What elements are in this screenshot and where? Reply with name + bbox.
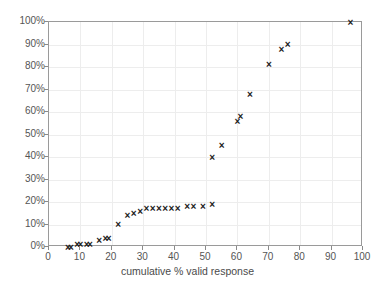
x-tick-label: 0 bbox=[33, 251, 63, 262]
data-point bbox=[245, 90, 254, 99]
gridline-horizontal bbox=[49, 135, 361, 136]
gridline-horizontal bbox=[49, 180, 361, 181]
x-tick-mark bbox=[362, 246, 363, 250]
y-tick-label: 30% bbox=[5, 174, 45, 184]
plot-area bbox=[48, 21, 362, 246]
gridline-vertical bbox=[80, 22, 81, 245]
y-tick-label: 50% bbox=[5, 129, 45, 139]
gridline-vertical bbox=[112, 22, 113, 245]
gridline-horizontal bbox=[49, 112, 361, 113]
x-tick-mark bbox=[299, 246, 300, 250]
x-tick-label: 40 bbox=[159, 251, 189, 262]
x-tick-label: 60 bbox=[221, 251, 251, 262]
x-tick-mark bbox=[48, 246, 49, 250]
x-tick-mark bbox=[174, 246, 175, 250]
x-tick-label: 20 bbox=[96, 251, 126, 262]
x-tick-mark bbox=[331, 246, 332, 250]
gridline-horizontal bbox=[49, 67, 361, 68]
gridline-vertical bbox=[237, 22, 238, 245]
x-tick-label: 50 bbox=[190, 251, 220, 262]
y-tick-label: 90% bbox=[5, 39, 45, 49]
gridline-horizontal bbox=[49, 45, 361, 46]
data-point bbox=[208, 153, 217, 162]
y-tick-label: 10% bbox=[5, 219, 45, 229]
x-tick-label: 30 bbox=[127, 251, 157, 262]
x-axis-title: cumulative % valid response bbox=[0, 265, 375, 277]
gridline-vertical bbox=[300, 22, 301, 245]
gridline-horizontal bbox=[49, 90, 361, 91]
data-point bbox=[264, 60, 273, 69]
data-point bbox=[208, 200, 217, 209]
x-tick-mark bbox=[205, 246, 206, 250]
gridline-horizontal bbox=[49, 22, 361, 23]
data-point bbox=[85, 240, 94, 249]
scatter-chart-figure: 0%10%20%30%40%50%60%70%80%90%100% 010203… bbox=[0, 0, 375, 291]
gridline-vertical bbox=[332, 22, 333, 245]
y-tick-label: 0% bbox=[5, 241, 45, 251]
x-tick-label: 70 bbox=[253, 251, 283, 262]
y-tick-label: 70% bbox=[5, 84, 45, 94]
x-tick-label: 90 bbox=[316, 251, 346, 262]
data-point bbox=[104, 234, 113, 243]
gridline-horizontal bbox=[49, 157, 361, 158]
data-point bbox=[217, 141, 226, 150]
x-tick-label: 10 bbox=[64, 251, 94, 262]
x-tick-label: 100 bbox=[347, 251, 375, 262]
x-tick-label: 80 bbox=[284, 251, 314, 262]
data-point bbox=[173, 204, 182, 213]
y-tick-label: 80% bbox=[5, 61, 45, 71]
data-point bbox=[114, 220, 123, 229]
x-tick-mark bbox=[236, 246, 237, 250]
gridline-vertical bbox=[206, 22, 207, 245]
data-point bbox=[283, 40, 292, 49]
x-tick-mark bbox=[79, 246, 80, 250]
x-tick-mark bbox=[111, 246, 112, 250]
data-point bbox=[198, 202, 207, 211]
x-tick-mark bbox=[142, 246, 143, 250]
x-tick-mark bbox=[268, 246, 269, 250]
y-tick-label: 100% bbox=[5, 16, 45, 26]
data-point bbox=[346, 18, 355, 27]
data-point bbox=[189, 202, 198, 211]
y-tick-label: 60% bbox=[5, 106, 45, 116]
y-tick-label: 20% bbox=[5, 196, 45, 206]
y-tick-label: 40% bbox=[5, 151, 45, 161]
gridline-horizontal bbox=[49, 225, 361, 226]
gridline-vertical bbox=[269, 22, 270, 245]
data-point bbox=[236, 112, 245, 121]
